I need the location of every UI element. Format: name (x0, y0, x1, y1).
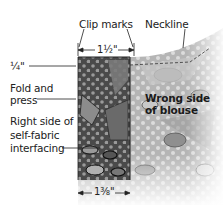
wrong-side-label-line2: of blouse (145, 104, 198, 117)
sewing-diagram: Clip marks Neckline 1½" ¼" Fold and pres… (0, 0, 223, 208)
interfacing-fabric (78, 57, 130, 180)
clip-marks-label: Clip marks (79, 18, 133, 31)
bottom-width-dimension: 1⅜" (94, 186, 115, 197)
right-side-label-line3: interfacing (10, 142, 64, 155)
fold-label-line2: press (10, 94, 37, 107)
top-width-dimension: 1½" (97, 44, 118, 55)
right-side-label-line1: Right side of (10, 115, 73, 128)
quarter-inch-label: ¼" (10, 60, 25, 73)
right-side-label-line2: self-fabric (10, 129, 59, 142)
neckline-label: Neckline (145, 18, 189, 31)
